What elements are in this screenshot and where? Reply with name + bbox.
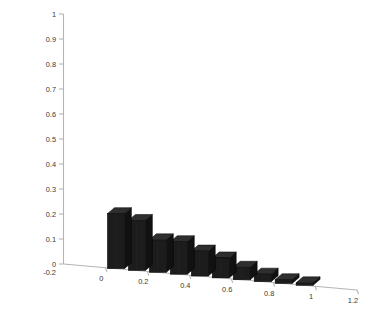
bar-3d [254,268,278,282]
bar-3d [191,245,215,276]
bar-front-face [275,280,292,284]
bar-side-face [166,234,173,273]
y-axis-tick-label: 0.3 [46,185,56,194]
bar-3d [233,261,257,280]
bar-side-face [187,236,194,275]
x-axis-start-label: -0.2 [43,268,56,277]
x-axis-tick-label: 0.4 [180,281,190,290]
bar-3d [275,274,299,284]
y-axis: 00.10.20.30.40.50.60.70.80.91 [46,10,64,269]
bar-3d [149,234,173,273]
x-axis-tick-label: 0 [99,274,103,283]
y-axis-tick-label: 0.1 [46,235,56,244]
bar-3d [170,236,194,275]
bars-group [107,208,320,286]
bar-3d [296,277,320,286]
bar-front-face [296,283,313,286]
bar-3d [212,252,236,278]
x-axis-tick-label: 0.8 [264,289,274,298]
x-axis-tick-label: 0.2 [138,277,148,286]
bar-3d [128,215,152,271]
y-axis-tick-label: 0.4 [46,160,56,169]
y-axis-tick-label: 1 [52,10,56,19]
chart-canvas: 00.10.20.30.40.50.60.70.80.91-0.200.20.4… [0,0,384,325]
y-axis-tick-label: 0.5 [46,135,56,144]
bar-side-face [145,215,152,271]
y-axis-tick-label: 0.7 [46,85,56,94]
y-axis-tick-label: 0.6 [46,110,56,119]
y-axis-tick-label: 0.9 [46,35,56,44]
bar-side-face [124,208,131,269]
x-axis-tick-label: 0.6 [222,285,232,294]
x-axis-tick [357,290,359,294]
y-axis-tick-label: 0.2 [46,210,56,219]
bar-3d [107,208,131,269]
x-axis-tick-label: 1.2 [348,296,358,305]
y-axis-tick-label: 0.8 [46,60,56,69]
bar-chart-figure: 00.10.20.30.40.50.60.70.80.91-0.200.20.4… [0,0,384,325]
x-axis-tick-label: 1 [309,292,313,301]
